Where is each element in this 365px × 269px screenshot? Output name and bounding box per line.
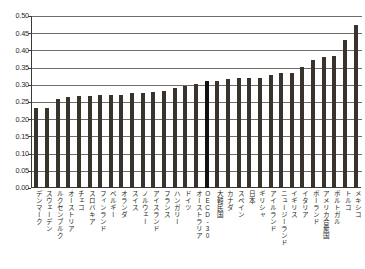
bar bbox=[130, 93, 134, 188]
gini-bar-chart: 0.500.450.400.350.300.250.200.150.100.05… bbox=[0, 0, 365, 269]
bar bbox=[205, 81, 209, 188]
bar bbox=[109, 95, 113, 188]
bar bbox=[119, 95, 123, 188]
bar bbox=[66, 97, 70, 188]
x-axis-label: メキシコ bbox=[351, 190, 360, 218]
bar bbox=[311, 60, 315, 188]
x-axis-label: アイスランド bbox=[149, 190, 158, 232]
x-axis-label: スイス bbox=[128, 190, 137, 211]
x-axis-label: オーストリア bbox=[64, 190, 73, 232]
bar bbox=[88, 96, 92, 188]
bar bbox=[247, 78, 251, 188]
y-axis-tick-label: 0.40 bbox=[0, 47, 29, 54]
x-axis-label: フィンランド bbox=[96, 190, 105, 232]
x-axis-label: ハンガリー bbox=[170, 190, 179, 225]
x-axis-label: スペイン bbox=[234, 190, 243, 218]
x-axis-label: スロバキア bbox=[85, 190, 94, 225]
y-axis-tick-label: 0.35 bbox=[0, 64, 29, 71]
x-axis-label: チェコ bbox=[74, 190, 83, 211]
bar bbox=[183, 86, 187, 189]
x-axis-label: ニュージーランド bbox=[277, 190, 286, 246]
y-axis-tick-label: 0.30 bbox=[0, 81, 29, 88]
x-axis-label: 日本 bbox=[245, 190, 254, 204]
bar bbox=[237, 78, 241, 188]
x-axis-label: アイルランド bbox=[266, 190, 275, 232]
x-axis-label: スウェーデン bbox=[42, 190, 51, 232]
x-axis-label: ルクセンブルク bbox=[53, 190, 62, 239]
x-axis-label: ギリシャ bbox=[255, 190, 264, 218]
x-axis-label: ベルギー bbox=[106, 190, 115, 218]
y-axis-tick-label: 0.45 bbox=[0, 30, 29, 37]
bar bbox=[215, 81, 219, 188]
bar bbox=[194, 84, 198, 188]
x-axis-label: ポルトガル bbox=[330, 190, 339, 225]
x-axis-labels: デンマークスウェーデンルクセンブルクオーストリアチェコスロバキアフィンランドベル… bbox=[31, 190, 361, 269]
y-axis-tick-label: 0.15 bbox=[0, 133, 29, 140]
bar bbox=[290, 73, 294, 188]
bar bbox=[258, 78, 262, 188]
bar bbox=[300, 67, 304, 188]
bar bbox=[173, 88, 177, 188]
y-axis-tick-label: 0.05 bbox=[0, 167, 29, 174]
bar bbox=[226, 79, 230, 188]
bar bbox=[98, 95, 102, 188]
x-axis-label: フランス bbox=[160, 190, 169, 218]
bar bbox=[151, 92, 155, 188]
bar bbox=[354, 25, 358, 188]
bar bbox=[162, 91, 166, 188]
bar bbox=[45, 108, 49, 188]
bar bbox=[269, 75, 273, 188]
y-axis-tick-label: 0.00 bbox=[0, 184, 29, 191]
bar bbox=[141, 93, 145, 188]
x-axis-label: OECD-30 bbox=[202, 190, 211, 239]
bar bbox=[34, 108, 38, 188]
x-axis-label: オランダ bbox=[117, 190, 126, 218]
bar bbox=[56, 99, 60, 188]
bar bbox=[332, 56, 336, 188]
bar bbox=[322, 57, 326, 188]
y-axis-tick-mark bbox=[28, 188, 31, 189]
x-axis-label: アメリカ合衆国 bbox=[319, 190, 328, 239]
x-axis-label: ノルウェー bbox=[138, 190, 147, 225]
bar bbox=[77, 96, 81, 188]
x-axis-label: カナダ bbox=[223, 190, 232, 211]
x-axis-label: トルコ bbox=[341, 190, 350, 211]
bar bbox=[343, 40, 347, 188]
x-axis-label: デンマーク bbox=[32, 190, 41, 225]
x-axis-label: オーストラリア bbox=[192, 190, 201, 239]
x-axis-label: ドイツ bbox=[181, 190, 190, 211]
x-axis-label: イタリア bbox=[298, 190, 307, 218]
y-axis-tick-label: 0.10 bbox=[0, 150, 29, 157]
y-axis-tick-label: 0.20 bbox=[0, 116, 29, 123]
bars-layer bbox=[31, 16, 361, 188]
x-axis-label: 大韓民国 bbox=[213, 190, 222, 218]
y-axis-tick-label: 0.25 bbox=[0, 98, 29, 105]
x-axis-label: ポーランド bbox=[309, 190, 318, 225]
bar bbox=[279, 73, 283, 188]
x-axis-label: イギリス bbox=[287, 190, 296, 218]
y-axis-tick-label: 0.50 bbox=[0, 12, 29, 19]
